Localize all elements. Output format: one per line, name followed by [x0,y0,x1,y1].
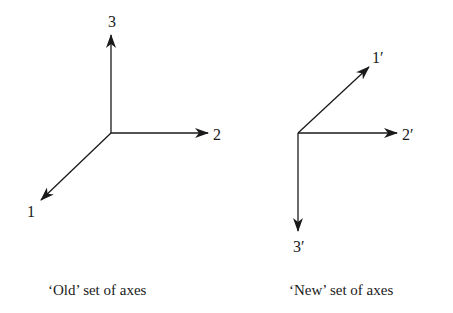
new-axis-3-label: 3′ [293,238,305,255]
axes-diagram: 3 2 1 1′ 2′ 3′ [0,0,453,313]
new-axes-group: 1′ 2′ 3′ [293,49,414,255]
old-axis-3-label: 3 [108,13,116,30]
old-axis-2-label: 2 [213,126,221,143]
new-axis-2-label: 2′ [402,126,414,143]
old-axes-caption: ‘Old’ set of axes [48,282,146,299]
old-axis-1-label: 1 [27,203,35,220]
new-axes-caption: ‘New’ set of axes [289,282,393,299]
old-axis-1-arrow [41,133,111,200]
old-axes-group: 3 2 1 [27,13,221,220]
new-axis-1-arrow [298,67,369,133]
new-axis-1-label: 1′ [372,49,384,66]
